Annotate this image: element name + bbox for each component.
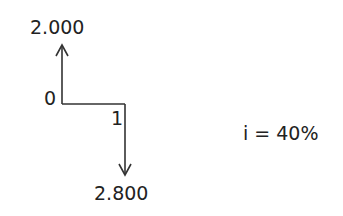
interest-rate: i = 40%	[243, 124, 319, 143]
inflow-value: 2.000	[30, 18, 84, 37]
outflow-value: 2.800	[94, 184, 148, 203]
period-1-label: 1	[111, 109, 123, 128]
period-0-label: 0	[44, 89, 56, 108]
